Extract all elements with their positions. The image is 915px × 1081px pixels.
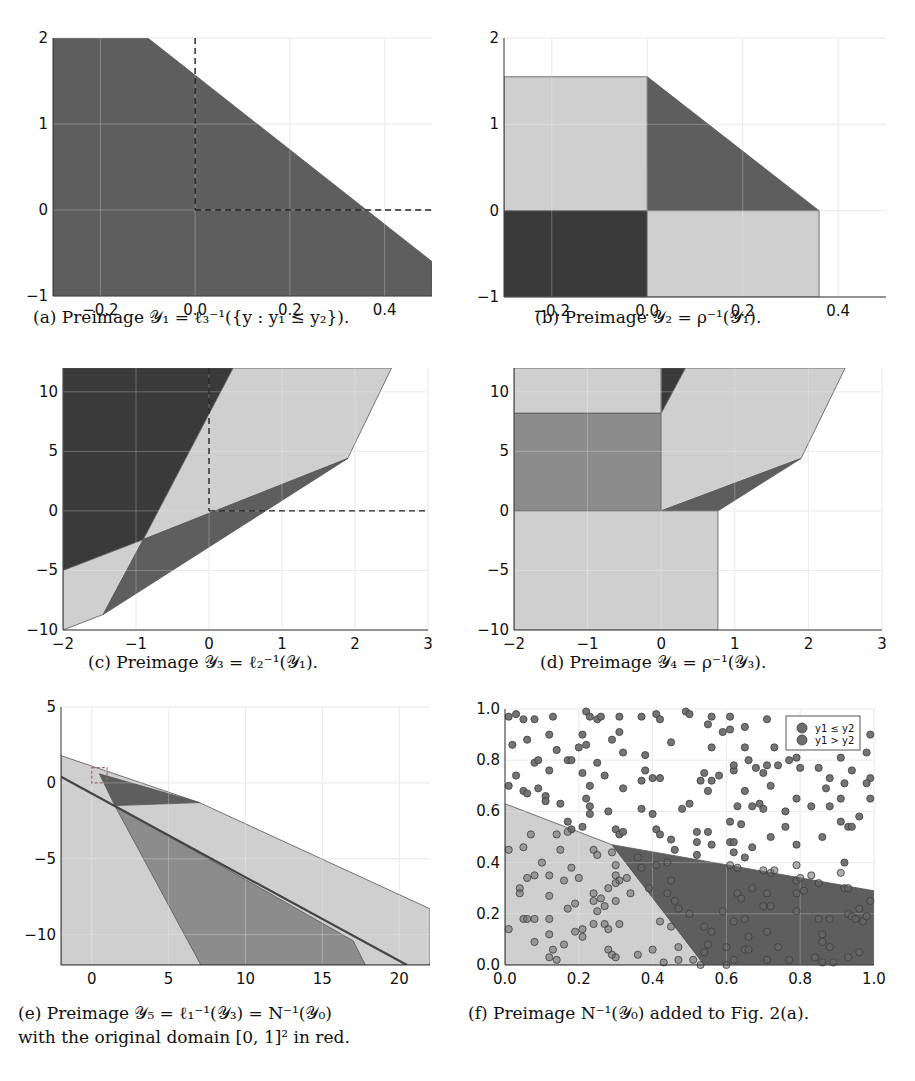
y-tick-label: −10 [477,621,509,639]
x-tick-label: 1 [277,635,287,653]
data-point [590,890,597,897]
data-point [549,713,556,720]
x-tick-label: 0.4 [826,302,850,320]
data-point [649,810,656,817]
data-point [808,803,815,810]
data-point [605,808,612,815]
data-point [826,943,833,950]
data-point [586,803,593,810]
data-point [538,859,545,866]
data-point [656,716,663,723]
data-point [605,885,612,892]
caption-a: (a) Preimage 𝒴₁ = ℓ₃⁻¹({y : y₁ ≤ y₂}). [33,307,349,328]
data-point [797,874,804,881]
x-tick-label: 2 [350,635,360,653]
data-point [557,800,564,807]
data-point [531,872,538,879]
data-point [575,744,582,751]
data-point [612,879,619,886]
data-point [616,920,623,927]
data-point [704,787,711,794]
data-point [738,895,745,902]
data-point [568,757,575,764]
data-point [583,795,590,802]
data-point [719,908,726,915]
data-point [512,711,519,718]
data-point [553,831,560,838]
data-point [612,862,619,869]
data-point [524,915,531,922]
data-point [524,874,531,881]
y-tick-label: 1 [38,115,48,133]
caption-b: (b) Preimage 𝒴₂ = ρ⁻¹(𝒴₁). [535,307,761,327]
data-point [815,764,822,771]
x-tick-label: 0.4 [373,301,397,319]
data-point [531,915,538,922]
data-point [782,823,789,830]
data-point [553,956,560,963]
data-point [557,846,564,853]
data-point [745,946,752,953]
data-point [564,818,571,825]
data-point [560,877,567,884]
x-tick-label: 20 [390,970,409,988]
data-point [586,810,593,817]
data-point [623,874,630,881]
data-point [741,854,748,861]
x-tick-label: 1.0 [862,970,886,988]
data-point [594,759,601,766]
data-point [719,728,726,735]
regions [53,38,432,296]
data-point [793,795,800,802]
data-point [826,803,833,810]
data-point [741,915,748,922]
regions [63,368,392,630]
data-point [760,867,767,874]
data-point [752,764,759,771]
data-point [837,754,844,761]
data-point [634,854,641,861]
data-point [505,846,512,853]
data-point [690,956,697,963]
data-point [826,915,833,922]
data-point [774,943,781,950]
y-tick-label: −10 [26,621,58,639]
data-point [793,890,800,897]
data-point [572,928,579,935]
data-point [763,890,770,897]
data-point [826,775,833,782]
data-point [726,726,733,733]
data-point [642,767,649,774]
data-point [741,744,748,751]
data-point [638,864,645,871]
data-point [867,897,874,904]
data-point [546,931,553,938]
region-mid_dark [647,77,819,211]
y-tick-label: 0 [46,774,56,792]
y-tick-label: 10 [39,383,58,401]
y-tick-label: −1 [477,288,499,306]
data-point [708,777,715,784]
data-point [531,938,538,945]
data-point [734,864,741,871]
legend-marker-icon [797,723,807,733]
data-point [786,956,793,963]
x-tick-label: 3 [423,635,433,653]
chart-panel-f: y1 ≤ y2y1 > y20.00.20.40.60.81.00.00.20.… [476,700,886,988]
data-point [549,946,556,953]
data-point [749,844,756,851]
data-point [542,798,549,805]
caption-e-line2: with the original domain [0, 1]² in red. [18,1027,350,1047]
y-tick-label: 0 [38,201,48,219]
data-point [675,905,682,912]
chart-panel-c: −2−10123−10−50510 [26,368,432,653]
chart-panel-a: −0.20.00.20.4−1012 [26,29,432,319]
y-tick-label: 2 [489,29,499,47]
y-tick-label: 5 [48,442,58,460]
chart-panel-e: 05101520−10−505 [24,698,430,988]
y-tick-label: 0.2 [476,905,500,923]
data-point [619,785,626,792]
data-point [645,885,652,892]
data-point [701,923,708,930]
data-point [767,833,774,840]
